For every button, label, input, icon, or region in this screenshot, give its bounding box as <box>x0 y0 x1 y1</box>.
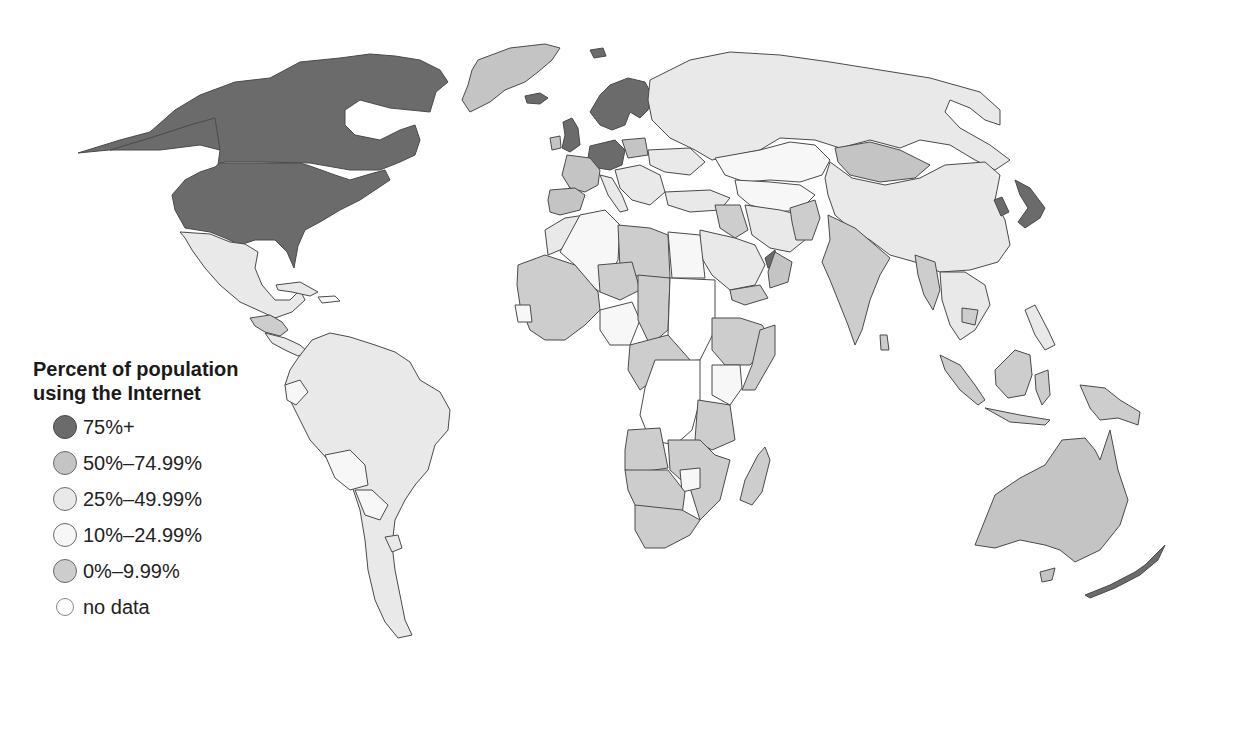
legend-label: 0%–9.99% <box>83 560 180 583</box>
legend-item-10-24: 10%–24.99% <box>53 517 239 553</box>
legend-item-0-9: 0%–9.99% <box>53 553 239 589</box>
region-chad <box>638 275 670 345</box>
region-cambodia <box>962 308 978 325</box>
region-russia <box>648 52 1010 170</box>
region-canada <box>78 54 448 170</box>
region-borneo <box>995 350 1032 398</box>
legend-item-50-74: 50%–74.99% <box>53 445 239 481</box>
region-niger <box>598 262 640 300</box>
legend-label: 10%–24.99% <box>83 524 202 547</box>
region-ireland <box>550 136 561 150</box>
swatch-50-74-icon <box>53 451 77 475</box>
legend-title-line2: using the Internet <box>33 381 239 405</box>
region-sulawesi <box>1035 370 1050 405</box>
region-sumatra <box>940 355 985 405</box>
legend-label: no data <box>83 596 150 619</box>
region-poland <box>622 138 648 158</box>
region-egypt <box>668 232 705 278</box>
region-new-zealand <box>1085 545 1165 598</box>
region-scandinavia <box>590 78 652 130</box>
region-ukraine <box>648 148 705 175</box>
swatch-no-data-icon <box>56 598 74 616</box>
swatch-25-49-icon <box>53 487 77 511</box>
region-svalbard <box>590 48 606 58</box>
legend-label: 50%–74.99% <box>83 452 202 475</box>
region-thailand-indochina <box>940 272 990 340</box>
region-spain <box>548 188 585 215</box>
legend: Percent of population using the Internet… <box>33 357 239 625</box>
legend-item-25-49: 25%–49.99% <box>53 481 239 517</box>
region-tasmania <box>1040 568 1055 582</box>
swatch-75-plus-icon <box>53 415 77 439</box>
region-south-africa <box>635 505 700 548</box>
legend-label: 25%–49.99% <box>83 488 202 511</box>
region-sri-lanka <box>880 335 889 350</box>
region-madagascar <box>740 447 770 505</box>
region-central-america <box>250 315 288 336</box>
legend-title: Percent of population using the Internet <box>33 357 239 405</box>
swatch-10-24-icon <box>53 523 77 547</box>
region-zimbabwe <box>680 468 700 492</box>
region-australia <box>975 430 1128 562</box>
region-iceland <box>525 93 548 104</box>
legend-label: 75%+ <box>83 416 135 439</box>
region-senegal <box>515 305 532 322</box>
swatch-0-9-icon <box>53 559 77 583</box>
region-japan <box>1015 180 1045 228</box>
region-nigeria <box>600 302 640 345</box>
region-philippines <box>1025 305 1055 350</box>
region-java <box>985 408 1050 425</box>
region-central-america-south <box>265 333 308 356</box>
legend-item-75-plus: 75%+ <box>53 409 239 445</box>
region-united-kingdom <box>562 118 580 152</box>
legend-title-line1: Percent of population <box>33 357 239 381</box>
region-greenland <box>462 44 560 112</box>
region-papua-new-guinea <box>1080 385 1140 425</box>
legend-item-no-data: no data <box>53 589 239 625</box>
region-angola <box>625 428 668 472</box>
region-kenya <box>712 365 742 405</box>
region-iraq <box>715 205 748 238</box>
region-hispaniola <box>318 296 340 303</box>
